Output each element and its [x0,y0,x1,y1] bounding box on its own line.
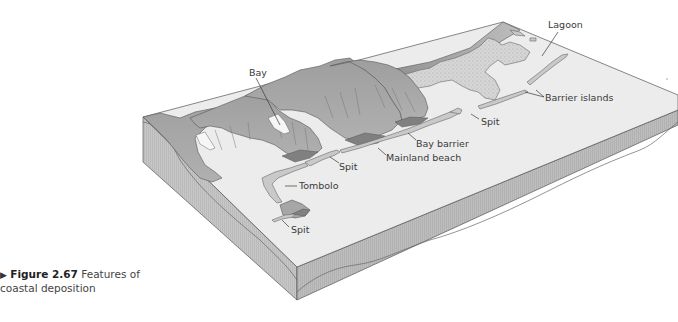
label-mainland-beach: Mainland beach [386,152,461,163]
caption-marker-icon: ▶ [0,270,7,280]
label-spit-lower: Spit [291,224,310,235]
figure-number: Figure 2.67 [10,268,78,280]
label-barrier-islands: Barrier islands [545,92,613,103]
label-tombolo: Tombolo [298,180,339,191]
stray-dot [666,78,668,80]
label-spit-right: Spit [481,116,500,127]
label-bay: Bay [249,67,267,78]
label-bay-barrier: Bay barrier [416,138,469,149]
figure-caption: ▶ Figure 2.67 Features of coastal deposi… [0,268,160,295]
label-lagoon: Lagoon [548,19,583,30]
label-spit-middle: Spit [339,161,358,172]
